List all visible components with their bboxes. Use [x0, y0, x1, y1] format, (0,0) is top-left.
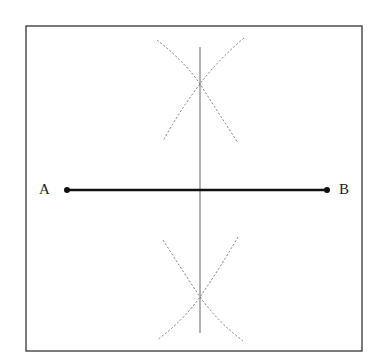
point-b-label: B [339, 181, 349, 198]
point-b-dot [324, 187, 330, 193]
arc-from-b-lower [157, 237, 238, 340]
point-a-label: A [39, 181, 50, 198]
frame [26, 26, 362, 351]
point-a-dot [64, 187, 70, 193]
arc-from-b-upper [157, 40, 238, 143]
diagram-canvas [0, 0, 373, 359]
